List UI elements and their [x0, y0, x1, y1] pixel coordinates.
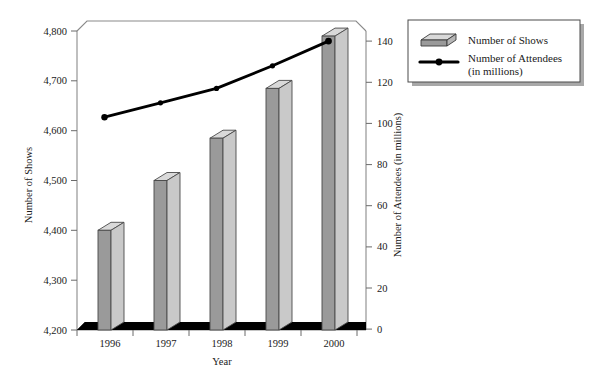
bar-2000[interactable] [322, 28, 348, 330]
bar-2000-front [322, 36, 335, 330]
y-right-tick-label-60: 60 [377, 200, 388, 211]
y-right-tick-label-0: 0 [377, 324, 382, 335]
bar-1999-front [266, 88, 279, 330]
y-left-tick-label-4200: 4,200 [43, 325, 67, 336]
bar-1997[interactable] [154, 173, 180, 331]
attendees-point-1999[interactable] [270, 63, 275, 68]
x-axis: 1996 1997 1998 1999 2000 Year [77, 330, 357, 367]
y-right-tick-label-120: 120 [377, 77, 393, 88]
x-category-label-2000: 2000 [324, 338, 345, 349]
legend-item-number-of-shows[interactable]: Number of Shows [421, 34, 548, 46]
y-axis-left-title: Number of Shows [23, 147, 34, 223]
bar-1998[interactable] [210, 130, 236, 330]
y-left-tick-label-4600: 4,600 [43, 125, 67, 136]
y-left-tick-label-4800: 4,800 [43, 26, 67, 37]
attendees-point-1996[interactable] [101, 114, 107, 120]
y-axis-left: 4,800 4,700 4,600 4,500 4,400 4,300 4,20… [23, 26, 77, 336]
y-axis-right: 140 120 100 80 60 40 20 0 Number of Atte… [366, 36, 404, 335]
bar-series-number-of-shows [98, 28, 348, 330]
bar-1999[interactable] [266, 80, 292, 330]
bar-1997-side [167, 173, 180, 331]
attendees-point-1997[interactable] [158, 100, 163, 105]
legend-label-number-of-attendees-line2: (in millions) [468, 65, 523, 78]
y-axis-right-title: Number of Attendees (in millions) [392, 112, 404, 257]
dual-axis-bar-line-chart: 4,800 4,700 4,600 4,500 4,400 4,300 4,20… [0, 0, 598, 376]
y-right-tick-label-140: 140 [377, 36, 393, 47]
x-category-label-1997: 1997 [156, 338, 177, 349]
bar-2000-side [335, 28, 348, 330]
x-category-label-1998: 1998 [212, 338, 233, 349]
y-right-tick-label-80: 80 [377, 159, 388, 170]
y-right-tick-label-100: 100 [377, 118, 393, 129]
y-right-tick-label-20: 20 [377, 283, 388, 294]
bar-1999-side [279, 80, 292, 330]
bar-1996-front [98, 230, 111, 330]
bar-1996-side [111, 222, 124, 330]
attendees-point-2000[interactable] [325, 38, 332, 45]
chart-legend: Number of Shows Number of Attendees (in … [408, 20, 584, 86]
plot-frame-top-edge [77, 21, 366, 31]
bar-1997-front [154, 181, 167, 331]
legend-label-number-of-shows: Number of Shows [468, 34, 548, 46]
bar-1996[interactable] [98, 222, 124, 330]
y-left-tick-label-4400: 4,400 [43, 225, 67, 236]
y-left-tick-label-4300: 4,300 [43, 275, 67, 286]
attendees-line-path[interactable] [105, 41, 329, 117]
x-category-label-1996: 1996 [100, 338, 121, 349]
attendees-point-1998[interactable] [214, 86, 219, 91]
bar-1998-front [210, 138, 223, 330]
x-tick-group [77, 330, 357, 336]
chart-figure: 4,800 4,700 4,600 4,500 4,400 4,300 4,20… [0, 0, 598, 376]
x-axis-title: Year [212, 356, 232, 367]
y-left-tick-group [71, 31, 77, 330]
y-left-tick-label-4700: 4,700 [43, 75, 67, 86]
legend-label-number-of-attendees-line1: Number of Attendees [468, 52, 562, 64]
x-category-label-1999: 1999 [268, 338, 289, 349]
y-right-tick-label-40: 40 [377, 241, 388, 252]
bar-1998-side [223, 130, 236, 330]
y-right-tick-group [366, 41, 372, 329]
floor-notch-0 [77, 322, 98, 330]
line-series-number-of-attendees [101, 38, 332, 121]
y-left-tick-label-4500: 4,500 [43, 175, 67, 186]
